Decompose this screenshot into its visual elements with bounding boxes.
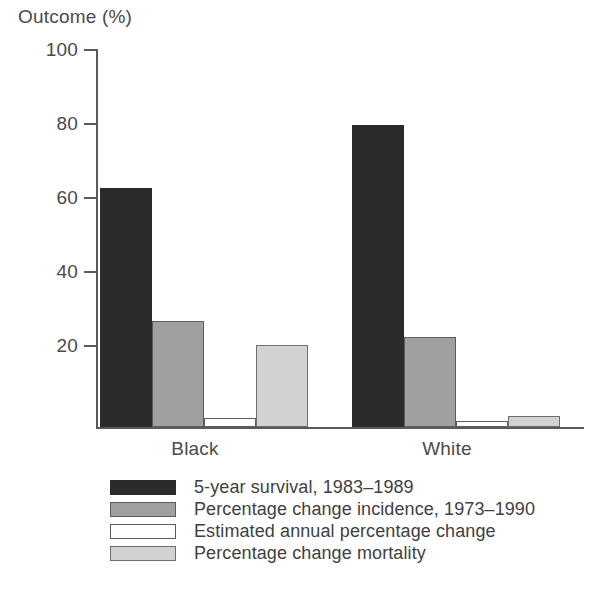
bar-chart-figure: Outcome (%) 100 80 60 40 20 Black White … [0,0,610,607]
legend-label-0: 5-year survival, 1983–1989 [194,477,414,498]
x-category-label-black: Black [100,438,290,460]
y-tick-label-80: 80 [6,113,78,135]
x-category-label-white: White [352,438,542,460]
legend-swatch-annual-percentage-change [110,524,176,539]
y-axis-title: Outcome (%) [18,6,132,28]
x-axis-line [96,427,584,429]
y-tick-60 [84,197,96,199]
legend-label-2: Estimated annual percentage change [194,521,496,542]
bars-layer [98,50,584,427]
y-tick-label-100: 100 [6,39,78,61]
y-tick-label-40: 40 [6,261,78,283]
legend-swatch-change-incidence [110,502,176,517]
bar-black-series-2 [204,418,256,427]
chart-legend: 5-year survival, 1983–1989 Percentage ch… [110,477,535,565]
y-tick-label-60: 60 [6,187,78,209]
bar-white-series-0 [352,125,404,427]
legend-item-2: Estimated annual percentage change [110,521,535,542]
legend-label-1: Percentage change incidence, 1973–1990 [194,499,535,520]
bar-black-series-3 [256,345,308,427]
legend-label-3: Percentage change mortality [194,543,426,564]
y-tick-100 [84,49,96,51]
bar-white-series-3 [508,416,560,427]
legend-item-3: Percentage change mortality [110,543,535,564]
y-tick-label-20: 20 [6,335,78,357]
legend-swatch-change-mortality [110,546,176,561]
bar-black-series-0 [100,188,152,427]
y-tick-40 [84,271,96,273]
y-tick-20 [84,345,96,347]
legend-swatch-5-year-survival [110,480,176,495]
bar-white-series-1 [404,337,456,427]
legend-item-1: Percentage change incidence, 1973–1990 [110,499,535,520]
y-tick-80 [84,123,96,125]
bar-white-series-2 [456,421,508,427]
bar-black-series-1 [152,321,204,427]
legend-item-0: 5-year survival, 1983–1989 [110,477,535,498]
